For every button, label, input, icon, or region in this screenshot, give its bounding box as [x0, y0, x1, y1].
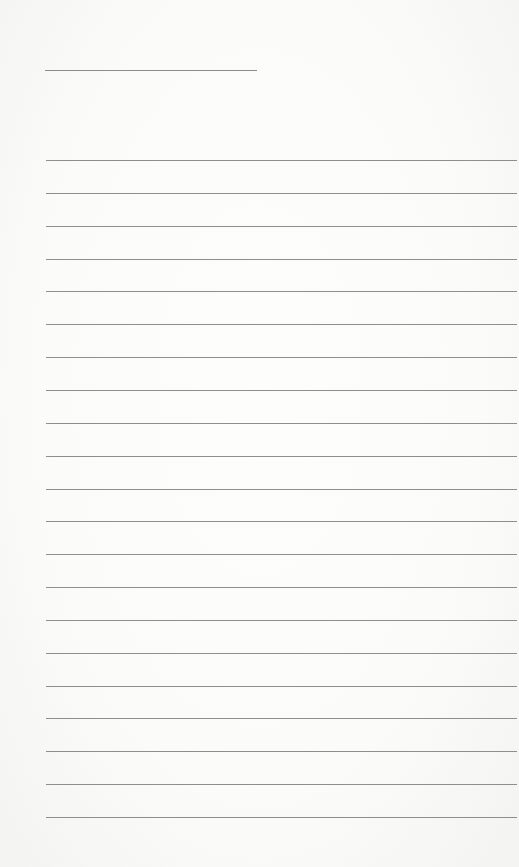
ruled-line [46, 390, 517, 391]
ruled-line [46, 324, 517, 325]
ruled-line [46, 160, 517, 161]
header-blank-line [45, 70, 257, 71]
ruled-line [46, 718, 517, 719]
ruled-line [46, 784, 517, 785]
ruled-line [46, 587, 517, 588]
ruled-line [46, 423, 517, 424]
ruled-line [46, 291, 517, 292]
ruled-line [46, 226, 517, 227]
ruled-line [46, 817, 517, 818]
ruled-line [46, 686, 517, 687]
ruled-line [46, 751, 517, 752]
lined-paper-page [0, 0, 519, 867]
ruled-line [46, 456, 517, 457]
ruled-line [46, 554, 517, 555]
ruled-line [46, 357, 517, 358]
ruled-line [46, 193, 517, 194]
ruled-line [46, 259, 517, 260]
ruled-line [46, 620, 517, 621]
ruled-line [46, 489, 517, 490]
ruled-line [46, 653, 517, 654]
ruled-line [46, 521, 517, 522]
